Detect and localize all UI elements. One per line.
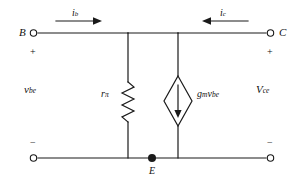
dependent-source-label: gmvbe (197, 89, 219, 99)
voltage-subscript-vbe: be (29, 86, 36, 95)
voltage-label-vbe: vbe (24, 84, 36, 95)
resistor-zigzag (122, 82, 134, 122)
polarity-plus-collector: + (267, 47, 273, 57)
source-arrow-head (174, 110, 181, 118)
terminal-marker-base (30, 30, 36, 36)
source-v-subscript: be (212, 90, 219, 99)
resistor-subscript: π (105, 90, 109, 99)
current-subscript-ic: c (223, 10, 226, 18)
voltage-subscript-vce: ce (263, 86, 270, 95)
current-arrow-ib-head (93, 17, 102, 25)
terminal-label-collector: C (279, 27, 286, 38)
voltage-symbol-vce: V (256, 83, 263, 95)
current-subscript-ib: b (75, 10, 79, 18)
terminal-label-base: B (19, 27, 26, 38)
polarity-minus-bottom-left: − (30, 138, 36, 148)
current-arrow-ic-head (202, 17, 211, 25)
voltage-label-vce: Vce (256, 84, 269, 95)
terminal-marker-bottom-right (267, 155, 273, 161)
resistor-label: rπ (101, 89, 109, 99)
polarity-minus-bottom-right: − (267, 138, 273, 148)
current-label-ic: ic (220, 8, 226, 18)
current-label-ib: ib (72, 8, 78, 18)
junction-dot-emitter (148, 154, 156, 162)
node-label-emitter: E (149, 166, 155, 176)
circuit-diagram-canvas: B C + + − − vbe Vce ib ic rπ gmvbe E (0, 0, 304, 183)
polarity-plus-base: + (30, 47, 36, 57)
terminal-marker-collector (267, 30, 273, 36)
terminal-marker-bottom-left (30, 155, 36, 161)
